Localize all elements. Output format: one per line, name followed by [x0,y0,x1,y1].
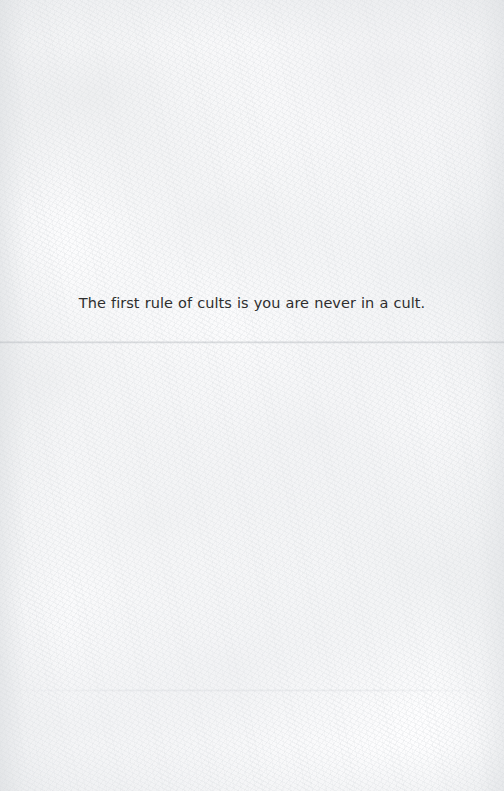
scanned-page: The first rule of cults is you are never… [0,0,504,791]
fold-crease-secondary [0,689,504,692]
page-edge-shading [0,0,504,791]
fold-crease-primary [0,341,504,344]
quote-text: The first rule of cults is you are never… [0,293,504,313]
